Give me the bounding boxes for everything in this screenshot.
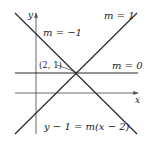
point-label: (2, 1)	[39, 60, 62, 70]
slope-label-one: m = 1	[104, 10, 135, 21]
y-axis-label: y	[27, 10, 34, 20]
line-family-diagram: y x m = 1 m = −1 m = 0 (2, 1) y − 1 = m(…	[0, 0, 149, 141]
x-axis-label: x	[135, 95, 140, 105]
slope-label-negative-one: m = −1	[43, 27, 82, 38]
slope-label-zero: m = 0	[112, 60, 143, 71]
equation-label: y − 1 = m(x − 2)	[43, 121, 130, 132]
